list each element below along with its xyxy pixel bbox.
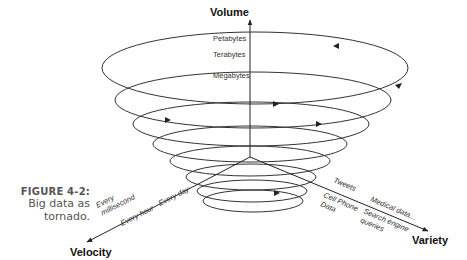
arrow-icon xyxy=(273,101,279,107)
arrow-icon xyxy=(316,121,322,127)
velocity-label-every-hour: Every hour xyxy=(119,203,156,228)
caption-line-2: tornado. xyxy=(0,210,90,223)
spiral-loop xyxy=(102,32,408,104)
spiral-loop xyxy=(203,190,303,212)
velocity-label-every-day: Every day xyxy=(157,184,192,208)
arrow-icon xyxy=(333,43,339,49)
spiral-loop xyxy=(186,164,316,190)
volume-label-terabytes: Terabytes xyxy=(213,50,246,59)
spiral-loop xyxy=(197,180,307,202)
spiral-loop xyxy=(115,72,391,128)
caption-line-1: Big data as xyxy=(0,197,90,210)
volume-label-petabytes: Petabytes xyxy=(213,34,247,43)
variety-axis-title: Variety xyxy=(412,234,449,246)
volume-label-megabytes: Megabytes xyxy=(213,71,250,80)
arrow-icon xyxy=(395,83,402,89)
volume-axis-title: Volume xyxy=(210,6,249,18)
spiral xyxy=(102,32,408,212)
figure-number: FIGURE 4-2: xyxy=(0,186,90,197)
velocity-axis-title: Velocity xyxy=(70,246,112,258)
variety-label-tweets: Tweets xyxy=(332,176,357,194)
figure-caption: FIGURE 4-2: Big data as tornado. xyxy=(0,186,90,223)
spiral-loop xyxy=(133,102,369,146)
